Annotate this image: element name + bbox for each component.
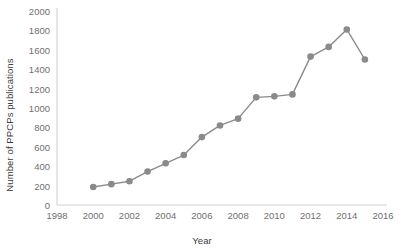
data-point-marker (162, 160, 169, 167)
data-point-marker (343, 26, 350, 33)
series-markers (90, 26, 368, 190)
data-point-marker (271, 93, 278, 100)
data-point-marker (108, 181, 115, 188)
line-chart: Number of PPCPs publications Year 020040… (0, 0, 404, 249)
data-point-marker (126, 178, 133, 185)
data-point-marker (289, 91, 296, 98)
data-point-marker (307, 53, 314, 60)
data-point-marker (180, 152, 187, 159)
data-point-marker (217, 122, 224, 129)
data-point-marker (362, 56, 369, 63)
plot-area (0, 0, 404, 249)
data-point-marker (253, 94, 260, 101)
data-point-marker (90, 184, 97, 191)
data-point-marker (325, 44, 332, 51)
data-point-marker (235, 115, 242, 122)
data-point-marker (144, 168, 151, 175)
data-point-marker (199, 134, 206, 141)
series-line (93, 29, 365, 187)
